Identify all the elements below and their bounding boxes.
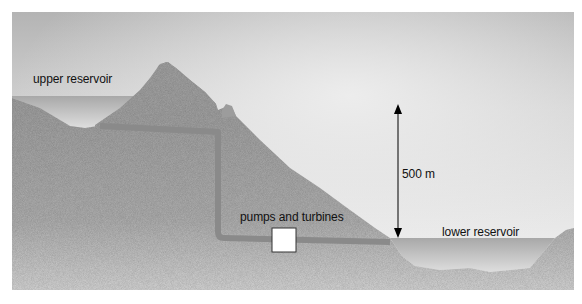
height-difference-label: 500 m xyxy=(402,168,435,180)
lower-reservoir-label: lower reservoir xyxy=(442,226,519,238)
upper-reservoir-label: upper reservoir xyxy=(33,73,112,85)
pumped-storage-diagram: upper reservoir pumps and turbines 500 m… xyxy=(0,0,582,304)
pumps-and-turbines-box xyxy=(272,228,296,252)
landscape-cross-section xyxy=(0,0,582,304)
pumps-and-turbines-label: pumps and turbines xyxy=(240,211,344,223)
